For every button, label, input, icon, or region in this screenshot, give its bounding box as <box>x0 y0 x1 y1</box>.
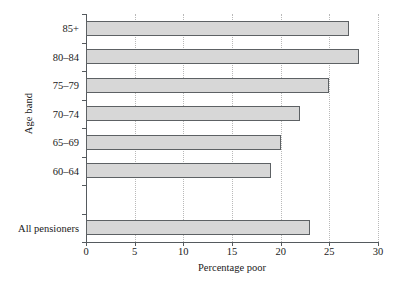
bar <box>86 163 271 178</box>
gridline <box>378 14 379 242</box>
x-axis-tick-label: 15 <box>227 246 238 257</box>
x-axis-tick-label: 5 <box>132 246 137 257</box>
gridline <box>183 14 184 242</box>
bar <box>86 49 359 64</box>
y-axis-tick <box>82 214 86 215</box>
bar-chart: Age band All pensioners60–6465–6970–7475… <box>0 0 403 289</box>
y-axis-tick-label: 85+ <box>63 23 79 34</box>
gridline <box>281 14 282 242</box>
y-axis-tick-label: 75–79 <box>53 80 79 91</box>
y-axis-tick-label: All pensioners <box>18 222 79 233</box>
x-axis-tick-label: 25 <box>324 246 335 257</box>
y-axis-tick <box>82 185 86 186</box>
gridline <box>232 14 233 242</box>
y-axis-tick <box>82 128 86 129</box>
y-axis-tick-label: 70–74 <box>53 108 79 119</box>
plot-area: All pensioners60–6465–6970–7475–7980–848… <box>86 14 378 242</box>
x-axis-tick-label: 30 <box>373 246 384 257</box>
bar <box>86 106 300 121</box>
bar <box>86 78 329 93</box>
x-axis-tick-label: 0 <box>83 246 88 257</box>
x-axis-tick-label: 20 <box>275 246 286 257</box>
y-axis-tick <box>82 43 86 44</box>
y-axis-tick <box>82 14 86 15</box>
y-axis-title: Age band <box>23 64 34 164</box>
y-axis-line <box>86 14 87 242</box>
gridline <box>329 14 330 242</box>
y-axis-tick <box>82 100 86 101</box>
bar <box>86 220 310 235</box>
y-axis-tick-label: 80–84 <box>53 51 79 62</box>
bar <box>86 135 281 150</box>
x-axis-tick-label: 10 <box>178 246 189 257</box>
y-axis-tick <box>82 71 86 72</box>
bar <box>86 21 349 36</box>
y-axis-tick <box>82 157 86 158</box>
gridline <box>135 14 136 242</box>
y-axis-tick-label: 60–64 <box>53 165 79 176</box>
y-axis-tick-label: 65–69 <box>53 137 79 148</box>
x-axis-title: Percentage poor <box>86 262 378 273</box>
